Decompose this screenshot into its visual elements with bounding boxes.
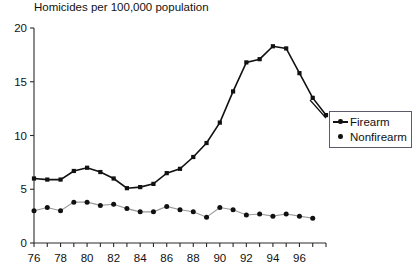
data-point-firearm bbox=[58, 177, 62, 181]
data-point-firearm bbox=[244, 60, 248, 64]
data-point-firearm bbox=[72, 169, 76, 173]
data-point-nonfirearm bbox=[111, 202, 116, 207]
legend-leader-line bbox=[310, 100, 326, 118]
data-point-nonfirearm bbox=[191, 209, 196, 214]
data-point-firearm bbox=[98, 170, 102, 174]
x-tick-label: 96 bbox=[293, 252, 306, 264]
data-point-firearm bbox=[165, 171, 169, 175]
y-tick-label: 20 bbox=[14, 22, 27, 34]
legend-label-nonfirearm: Nonfirearm bbox=[350, 131, 407, 143]
data-point-firearm bbox=[85, 166, 89, 170]
x-tick-label: 82 bbox=[107, 252, 120, 264]
data-point-nonfirearm bbox=[178, 207, 183, 212]
data-point-firearm bbox=[231, 89, 235, 93]
chart-container: Homicides per 100,000 population 0510152… bbox=[0, 0, 414, 270]
data-point-nonfirearm bbox=[257, 211, 262, 216]
x-tick-label: 78 bbox=[54, 252, 67, 264]
data-point-firearm bbox=[178, 167, 182, 171]
data-point-nonfirearm bbox=[284, 211, 289, 216]
data-point-firearm bbox=[271, 44, 275, 48]
x-tick-label: 80 bbox=[81, 252, 94, 264]
x-tick-label: 76 bbox=[28, 252, 41, 264]
data-point-nonfirearm bbox=[138, 209, 143, 214]
chart-legend: Firearm Nonfirearm bbox=[329, 111, 412, 148]
y-tick-label: 0 bbox=[21, 237, 27, 249]
x-tick-label: 88 bbox=[187, 252, 200, 264]
data-point-nonfirearm bbox=[151, 209, 156, 214]
data-point-firearm bbox=[258, 57, 262, 61]
x-tick-label: 90 bbox=[213, 252, 226, 264]
data-point-nonfirearm bbox=[244, 213, 249, 218]
x-tick-label: 86 bbox=[160, 252, 173, 264]
data-point-nonfirearm bbox=[98, 203, 103, 208]
data-point-nonfirearm bbox=[71, 200, 76, 205]
y-tick-label: 15 bbox=[14, 76, 27, 88]
nonfirearm-dot-marker-icon bbox=[333, 131, 348, 142]
data-point-firearm bbox=[204, 141, 208, 145]
data-point-firearm bbox=[191, 155, 195, 159]
data-point-firearm bbox=[125, 186, 129, 190]
data-point-nonfirearm bbox=[58, 208, 63, 213]
firearm-line-marker-icon bbox=[333, 116, 348, 127]
data-point-firearm bbox=[284, 46, 288, 50]
legend-item-firearm: Firearm bbox=[333, 114, 407, 129]
data-point-firearm bbox=[218, 121, 222, 125]
x-tick-label: 84 bbox=[134, 252, 147, 264]
legend-item-nonfirearm: Nonfirearm bbox=[333, 129, 407, 144]
y-tick-label: 5 bbox=[21, 183, 27, 195]
data-point-firearm bbox=[112, 176, 116, 180]
data-point-nonfirearm bbox=[45, 205, 50, 210]
data-point-firearm bbox=[297, 71, 301, 75]
data-point-nonfirearm bbox=[124, 206, 129, 211]
x-tick-label: 94 bbox=[267, 252, 280, 264]
data-point-nonfirearm bbox=[204, 215, 209, 220]
data-point-firearm bbox=[32, 176, 36, 180]
data-point-nonfirearm bbox=[217, 205, 222, 210]
data-point-nonfirearm bbox=[270, 214, 275, 219]
data-point-nonfirearm bbox=[85, 200, 90, 205]
data-point-firearm bbox=[45, 177, 49, 181]
data-point-firearm bbox=[151, 182, 155, 186]
data-point-firearm bbox=[311, 96, 315, 100]
data-point-nonfirearm bbox=[231, 207, 236, 212]
x-tick-label: 92 bbox=[240, 252, 253, 264]
data-point-nonfirearm bbox=[32, 208, 37, 213]
data-point-nonfirearm bbox=[164, 204, 169, 209]
data-point-nonfirearm bbox=[297, 214, 302, 219]
legend-label-firearm: Firearm bbox=[350, 116, 390, 128]
data-point-firearm bbox=[138, 185, 142, 189]
y-tick-label: 10 bbox=[14, 130, 27, 142]
data-point-nonfirearm bbox=[310, 216, 315, 221]
